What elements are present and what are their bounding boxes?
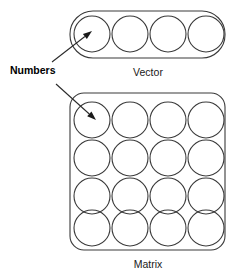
vector-matrix-diagram: Numbers Vector Matrix xyxy=(0,0,238,280)
matrix-number-cell-13 xyxy=(74,210,110,246)
callout-arrows xyxy=(52,31,96,120)
matrix-number-cell-9 xyxy=(74,178,110,214)
vector-caption-label: Vector xyxy=(133,66,163,78)
matrix-number-cell-8 xyxy=(188,140,224,176)
vector-number-cell-1 xyxy=(74,16,110,52)
vector-number-cell-2 xyxy=(112,16,148,52)
matrix-number-cell-3 xyxy=(150,102,186,138)
vector-cells xyxy=(74,16,224,52)
matrix-number-cell-10 xyxy=(112,178,148,214)
matrix-number-cell-12 xyxy=(188,178,224,214)
matrix-number-cell-7 xyxy=(150,140,186,176)
matrix-number-cell-14 xyxy=(112,210,148,246)
matrix-number-cell-16 xyxy=(188,210,224,246)
vector-number-cell-3 xyxy=(150,16,186,52)
matrix-caption-label: Matrix xyxy=(134,258,163,270)
matrix-number-cell-2 xyxy=(112,102,148,138)
vector-number-cell-4 xyxy=(188,16,224,52)
matrix-number-cell-11 xyxy=(150,178,186,214)
matrix-number-cell-6 xyxy=(112,140,148,176)
arrow-to-vector-shaft xyxy=(52,37,85,62)
diagram-root: Numbers Vector Matrix xyxy=(0,0,238,280)
arrow-to-vector-head xyxy=(83,31,92,39)
matrix-number-cell-1 xyxy=(74,102,110,138)
vector-group xyxy=(70,11,225,58)
matrix-number-cell-15 xyxy=(150,210,186,246)
matrix-cells xyxy=(74,102,224,246)
numbers-callout-label: Numbers xyxy=(10,64,56,76)
arrow-to-matrix-shaft xyxy=(56,84,89,114)
matrix-number-cell-4 xyxy=(188,102,224,138)
matrix-number-cell-5 xyxy=(74,140,110,176)
